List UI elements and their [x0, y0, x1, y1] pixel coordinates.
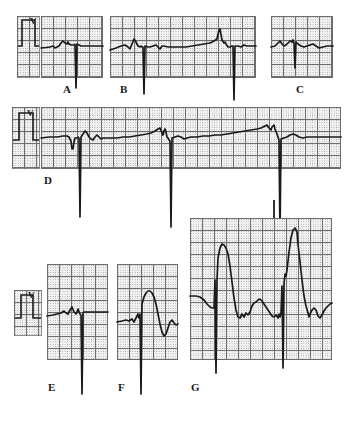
calibration-voltage-label: V	[28, 291, 35, 300]
ecg-grid-b	[110, 16, 256, 78]
panel-label-f: F	[118, 382, 125, 393]
calibration-marker-2: V	[12, 107, 40, 169]
panel-label-a: A	[63, 84, 71, 95]
panel-label-d: D	[44, 175, 52, 186]
panel-e	[47, 264, 108, 360]
panel-label-c: C	[296, 84, 304, 95]
calibration-marker-1: V	[17, 16, 40, 78]
ecg-grid-a	[41, 16, 103, 78]
panel-g	[190, 218, 332, 360]
panel-d	[41, 107, 341, 169]
panel-a	[41, 16, 103, 78]
ecg-grid-e	[47, 264, 108, 360]
calibration-voltage-label: V	[27, 109, 34, 118]
ecg-grid-g	[190, 218, 332, 360]
panel-f	[117, 264, 178, 360]
panel-b	[110, 16, 256, 78]
panel-label-e: E	[48, 382, 56, 393]
panel-label-g: G	[191, 382, 200, 393]
ecg-figure: V A B C	[0, 0, 355, 434]
panel-label-b: B	[120, 84, 128, 95]
panel-c	[271, 16, 333, 78]
calibration-voltage-label: V	[30, 17, 37, 26]
ecg-grid-d	[41, 107, 341, 169]
calibration-pulse-icon	[12, 107, 40, 169]
ecg-grid-c	[271, 16, 333, 78]
spike-tail-tick	[273, 200, 275, 218]
ecg-grid-f	[117, 264, 178, 360]
calibration-marker-3: V	[14, 290, 42, 336]
